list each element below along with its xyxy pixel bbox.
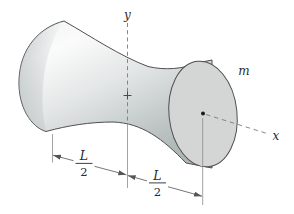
x-axis-label: x	[273, 129, 280, 143]
dimension-left-numerator: L	[79, 148, 88, 163]
mass-label: m	[238, 64, 249, 78]
dimension-right-numerator: L	[152, 168, 161, 183]
dimension-right-denominator: 2	[154, 185, 161, 199]
figure-canvas: L 2 L 2 y x m	[0, 0, 294, 214]
face-center-dot	[201, 112, 205, 116]
figure-spool-of-revolution: L 2 L 2 y x m	[0, 0, 294, 214]
dimension-left-denominator: 2	[80, 165, 87, 179]
y-axis-label: y	[123, 8, 131, 22]
